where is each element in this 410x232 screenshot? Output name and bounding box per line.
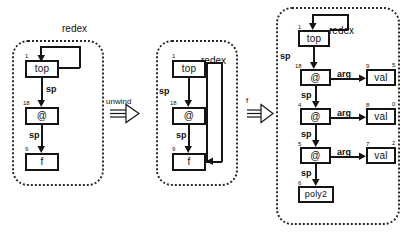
node-at-1[interactable]: @ <box>25 107 59 125</box>
node-val-3b[interactable]: val <box>366 108 396 125</box>
node-f-2[interactable]: f <box>172 153 206 171</box>
node-top-1[interactable]: top <box>25 60 59 78</box>
node-num-at2: 18 <box>170 100 177 106</box>
edge-label-sp-1b: sp <box>29 131 40 140</box>
redex1-loop-right <box>79 46 81 68</box>
tag-redex-1: redex <box>62 24 87 34</box>
node-at-2[interactable]: @ <box>172 107 206 125</box>
node-at-3c[interactable]: @ <box>300 147 331 164</box>
redex2-wire-horizontal <box>206 62 222 64</box>
edge-at3a-at3b <box>315 86 317 105</box>
node-top-3[interactable]: top <box>298 30 330 47</box>
node-num-top2: 1 <box>172 53 175 59</box>
redex1-loop-bottom <box>58 67 80 69</box>
node-num-f1: 9 <box>25 146 28 152</box>
node-poly2-3[interactable]: poly2 <box>298 186 334 203</box>
node-at-3a[interactable]: @ <box>300 69 331 86</box>
redex2-wire-vertical <box>206 62 208 162</box>
edge-at3b-at3c <box>315 125 317 144</box>
node-num-f2: 9 <box>172 146 175 152</box>
diagram-canvas: redex 1 top sp 18 @ sp 9 f unwind redex … <box>0 0 410 232</box>
redex2-wire-into-f <box>206 161 222 163</box>
transition-arrow-f <box>247 105 273 123</box>
redex1-arrow-stem <box>40 46 42 57</box>
transition-label-unwind: unwind <box>106 98 131 106</box>
transition-arrow-unwind <box>110 105 139 123</box>
edge-at1-f1 <box>41 125 43 148</box>
edge-label-sp-1a: sp <box>46 85 57 94</box>
edge-label-sp-3c: sp <box>301 130 312 139</box>
node-at-3b[interactable]: @ <box>300 108 331 125</box>
edge-top2-at2 <box>188 78 190 102</box>
edge-at3c-val3c <box>331 156 362 158</box>
edge-at3c-poly3 <box>315 164 317 183</box>
redex1-loop-top <box>40 46 80 48</box>
node-num2-val3b: 0 <box>392 101 395 107</box>
edge-top1-at1 <box>41 78 43 102</box>
tag-redex-3: redex <box>329 26 354 36</box>
node-f-1[interactable]: f <box>25 153 59 171</box>
node-val-3c[interactable]: val <box>366 147 396 164</box>
transition-label-f: f <box>246 97 248 105</box>
node-top-2[interactable]: top <box>172 60 206 78</box>
edge-at2-f2 <box>188 125 190 148</box>
node-num2-val3c: 2 <box>392 140 395 146</box>
redex2-wire-down <box>221 62 223 162</box>
edge-label-sp-2b: sp <box>176 131 187 140</box>
edge-label-sp-3b: sp <box>301 91 312 100</box>
edge-label-sp-3a: sp <box>280 52 291 61</box>
edge-label-sp-3d: sp <box>301 169 312 178</box>
redex3-arrow-stem <box>312 14 314 23</box>
edge-top3-at3a <box>313 47 315 66</box>
edge-at3b-val3b <box>331 117 362 119</box>
redex3-loop-top <box>312 14 348 16</box>
edge-label-sp-2a: sp <box>159 87 170 96</box>
node-num2-val3a: 5 <box>392 62 395 68</box>
node-num-top1: 1 <box>25 53 28 59</box>
edge-at3a-val3a <box>331 78 362 80</box>
node-val-3a[interactable]: val <box>366 69 396 86</box>
node-num-at1: 18 <box>23 100 30 106</box>
